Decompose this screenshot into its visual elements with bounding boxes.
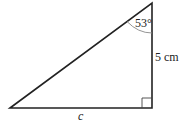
right-triangle-diagram: 53° 5 cm c (0, 0, 186, 121)
triangle-outline (10, 3, 152, 108)
horizontal-side-label: c (78, 109, 84, 121)
angle-label: 53° (135, 16, 152, 30)
vertical-side-label: 5 cm (155, 50, 179, 64)
right-angle-marker (142, 98, 152, 108)
